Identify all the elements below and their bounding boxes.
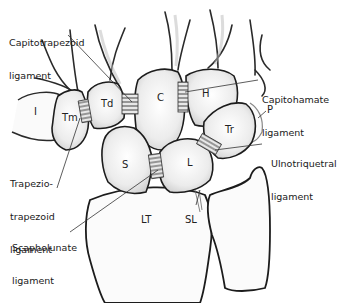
callout-line: ligament bbox=[271, 191, 337, 202]
radius bbox=[86, 187, 212, 303]
bone-label-S: S bbox=[122, 159, 128, 170]
callout-line: Trapezio- bbox=[10, 178, 55, 189]
callout-line: Ulnotriquetral bbox=[271, 158, 337, 169]
bone-label-I: I bbox=[34, 106, 37, 117]
bone-label-Tm: Tm bbox=[62, 112, 78, 123]
ulna bbox=[208, 167, 270, 291]
callout-line: ligament bbox=[12, 275, 77, 286]
bone-label-L: L bbox=[187, 157, 193, 168]
callout-line: Capitohamate bbox=[262, 94, 329, 105]
callout-line: Capitotrapezoid bbox=[9, 37, 84, 48]
bone-label-LT: LT bbox=[141, 214, 151, 225]
callout-line: ligament bbox=[9, 70, 84, 81]
bone-label-Td: Td bbox=[101, 98, 113, 109]
bone-label-C: C bbox=[157, 92, 164, 103]
callout-line: Scapholunate bbox=[12, 242, 77, 253]
bone-label-SL: SL bbox=[185, 214, 197, 225]
ligament-capitohamate bbox=[178, 82, 188, 112]
callout-ulnotriquetral: Ulnotriquetral ligament bbox=[271, 136, 337, 213]
callout-scapholunate: Scapholunate ligament bbox=[12, 220, 77, 297]
callout-capitotrapezoid: Capitotrapezoid ligament bbox=[9, 15, 84, 92]
bone-label-Tr: Tr bbox=[225, 124, 234, 135]
ligament-capitotrapezoid bbox=[122, 94, 138, 114]
bone-label-H: H bbox=[202, 88, 210, 99]
